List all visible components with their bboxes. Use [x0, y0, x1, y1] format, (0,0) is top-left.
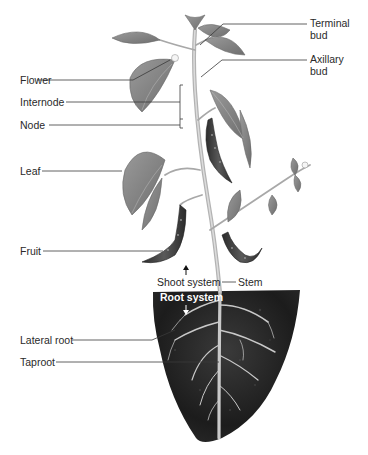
label-stem: Stem: [238, 276, 263, 288]
label-leaf: Leaf: [20, 165, 40, 177]
label-lateral-root: Lateral root: [20, 334, 73, 346]
label-shoot-system: Shoot system: [157, 276, 221, 288]
label-root-system: Root system: [160, 291, 223, 303]
label-flower: Flower: [20, 74, 52, 86]
label-taproot: Taproot: [20, 356, 55, 368]
label-terminal-bud: Terminal bud: [310, 17, 350, 41]
label-axillary-bud: Axillary bud: [310, 53, 344, 77]
soil-region: [153, 290, 300, 442]
label-fruit: Fruit: [20, 245, 41, 257]
label-axillary-bud-line1: Axillary: [310, 53, 344, 65]
label-terminal-bud-line2: bud: [310, 29, 350, 41]
label-terminal-bud-line1: Terminal: [310, 17, 350, 29]
label-node: Node: [20, 119, 45, 131]
label-axillary-bud-line2: bud: [310, 65, 344, 77]
label-internode: Internode: [20, 96, 64, 108]
